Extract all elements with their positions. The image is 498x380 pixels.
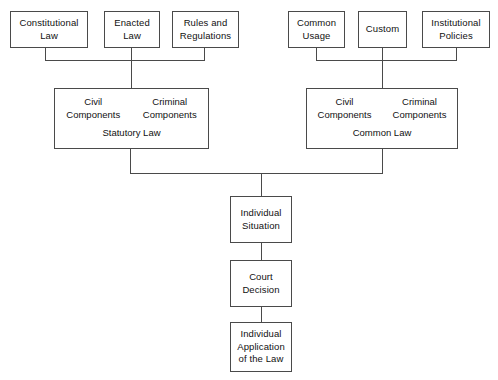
- node-label-line1: Individual: [240, 328, 281, 341]
- node-label-common-law: Common Law: [307, 127, 457, 140]
- node-custom[interactable]: Custom: [358, 11, 407, 48]
- node-enacted-law[interactable]: Enacted Law: [104, 11, 160, 48]
- node-individual-application-of-the-law[interactable]: Individual Application of the Law: [230, 322, 292, 372]
- node-label-line2: Law: [123, 30, 141, 43]
- common-law-components: Civil Components Criminal Components: [307, 96, 457, 121]
- component-label-line1: Civil: [57, 96, 130, 109]
- node-institutional-policies[interactable]: Institutional Policies: [422, 11, 490, 48]
- connector-institutional-policies-stub: [456, 48, 457, 61]
- component-label-line2: Components: [57, 109, 130, 122]
- node-rules-and-regulations[interactable]: Rules and Regulations: [172, 11, 239, 48]
- component-label-line1: Civil: [309, 96, 381, 109]
- connector-left-bus-to-statutory-law: [131, 60, 132, 89]
- node-label-line1: Institutional: [431, 17, 480, 30]
- node-common-law[interactable]: Civil Components Criminal Components Com…: [306, 88, 458, 149]
- component-label-line2: Components: [384, 109, 456, 122]
- component-label-line1: Criminal: [384, 96, 456, 109]
- connector-right-bus-to-common-law: [382, 60, 383, 89]
- node-label-line1: Rules and: [184, 17, 228, 30]
- component-label-line2: Components: [133, 109, 206, 122]
- connector-merge-bus: [130, 173, 383, 174]
- connector-merge-bus-to-individual-situation: [261, 173, 262, 197]
- connector-left-bus: [45, 60, 205, 61]
- component-civil: Civil Components: [57, 96, 130, 121]
- node-label-line1: Common: [297, 17, 336, 30]
- connector-common-law-down: [382, 149, 383, 174]
- node-label-line2: Usage: [303, 30, 331, 43]
- connector-right-bus: [316, 60, 456, 61]
- node-label-line1: Enacted: [114, 17, 150, 30]
- node-label-line2: Situation: [242, 220, 280, 233]
- component-label-line1: Criminal: [133, 96, 206, 109]
- node-statutory-law[interactable]: Civil Components Criminal Components Sta…: [54, 88, 209, 149]
- component-civil: Civil Components: [309, 96, 381, 121]
- node-court-decision[interactable]: Court Decision: [230, 260, 292, 307]
- node-label-line2: Decision: [242, 284, 279, 297]
- node-label-line1: Constitutional: [20, 17, 79, 30]
- node-label-line2: Application: [237, 341, 285, 354]
- node-label-line2: Regulations: [180, 30, 231, 43]
- node-label-line2: Law: [40, 30, 58, 43]
- node-label-line3: of the Law: [239, 353, 284, 366]
- connector-statutory-law-down: [130, 149, 131, 174]
- node-label-line1: Custom: [366, 23, 399, 36]
- node-label-line2: Policies: [439, 30, 473, 43]
- component-label-line2: Components: [309, 109, 381, 122]
- node-label-line1: Individual: [240, 207, 281, 220]
- connector-situation-to-decision: [261, 243, 262, 261]
- node-label-line1: Court: [249, 271, 273, 284]
- law-sources-diagram: Constitutional Law Enacted Law Rules and…: [0, 0, 498, 380]
- connector-decision-to-application: [261, 307, 262, 323]
- node-common-usage[interactable]: Common Usage: [288, 11, 345, 48]
- component-criminal: Criminal Components: [384, 96, 456, 121]
- node-individual-situation[interactable]: Individual Situation: [230, 196, 292, 243]
- node-constitutional-law[interactable]: Constitutional Law: [10, 11, 88, 48]
- statutory-law-components: Civil Components Criminal Components: [55, 96, 208, 121]
- component-criminal: Criminal Components: [133, 96, 206, 121]
- node-label-statutory-law: Statutory Law: [55, 127, 208, 140]
